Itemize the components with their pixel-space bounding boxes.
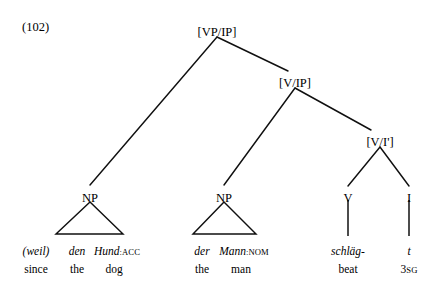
gloss-agreement-sg: SG — [406, 265, 417, 275]
gloss-target-dog: dog — [105, 264, 122, 276]
gloss-source-hund: Hund:ACC — [94, 246, 140, 258]
branch-root-to-np1 — [90, 37, 217, 185]
gloss-target-man: man — [231, 264, 251, 276]
gloss-source-der: der — [194, 246, 209, 258]
branch-vip-to-np2 — [224, 88, 295, 185]
node-label-v-i-bar: [V/I'] — [366, 136, 393, 149]
gloss-source-weil: (weil) — [23, 246, 50, 258]
node-label-v: V — [343, 192, 352, 205]
gloss-target-the-1: the — [70, 264, 84, 276]
gloss-target-the-2: the — [195, 264, 209, 276]
gloss-source-schlaeg: schläg- — [331, 246, 365, 258]
gloss-case-nom: :NOM — [246, 247, 269, 257]
gloss-target-beat: beat — [338, 264, 357, 276]
gloss-source-mann: Mann:NOM — [219, 246, 269, 258]
node-label-v-ip: [V/IP] — [279, 77, 311, 90]
gloss-source-mann-word: Mann — [219, 245, 246, 257]
node-label-vp-ip: [VP/IP] — [198, 26, 237, 39]
gloss-target-since: since — [24, 264, 48, 276]
syntax-tree-figure: (102) [VP/IP] [V/IP] [V/I'] NP NP V I (w… — [0, 0, 435, 284]
gloss-source-hund-word: Hund — [94, 245, 120, 257]
gloss-case-acc: :ACC — [120, 247, 140, 257]
branch-root-to-vip — [217, 37, 288, 71]
triangle-np1 — [56, 202, 123, 234]
node-label-np1: NP — [82, 192, 98, 205]
triangle-np2 — [193, 202, 256, 234]
node-label-i: I — [407, 192, 411, 205]
branch-vip-to-vibar — [295, 88, 371, 130]
gloss-source-den: den — [69, 246, 86, 258]
branch-vibar-to-v — [348, 147, 380, 186]
gloss-source-trace: t — [407, 246, 410, 258]
gloss-target-3sg: 3SG — [401, 264, 418, 276]
branch-vibar-to-i — [380, 147, 409, 186]
node-label-np2: NP — [216, 192, 232, 205]
